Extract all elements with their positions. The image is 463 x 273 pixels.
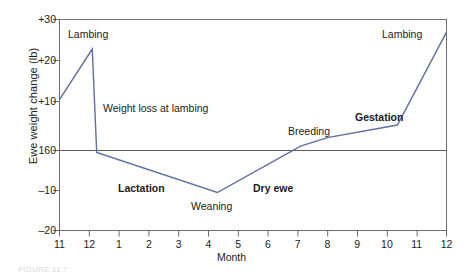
x-axis-title: Month — [0, 251, 463, 263]
x-tick-label-0: 11 — [47, 238, 73, 250]
figure-caption: FIGURE 11.7 — [18, 265, 68, 273]
y-tick-label-160: 160 — [22, 144, 56, 156]
figure-ewe-weight-change: Ewe weight change (lb) +30 +20 +10 160 –… — [0, 0, 463, 273]
y-tick-labels: +30 +20 +10 160 –10 –20 — [0, 0, 56, 273]
annotation-weight-loss-at-lambing: Weight loss at lambing — [103, 102, 208, 114]
x-tick-label-4: 3 — [166, 238, 192, 250]
x-tick-label-6: 5 — [225, 238, 251, 250]
x-tick-label-8: 7 — [285, 238, 311, 250]
x-tick-label-9: 8 — [314, 238, 340, 250]
y-tick-label-neg20: –20 — [22, 224, 56, 236]
annotation-lambing-start: Lambing — [68, 28, 108, 40]
chart-canvas — [0, 0, 463, 273]
y-tick-label-30: +30 — [22, 13, 56, 25]
x-tick-label-7: 6 — [255, 238, 281, 250]
y-tick-label-10: +10 — [22, 95, 56, 107]
annotation-lactation: Lactation — [118, 182, 165, 194]
annotation-lambing-end: Lambing — [382, 28, 422, 40]
x-tick-label-13: 12 — [434, 238, 460, 250]
annotation-breeding: Breeding — [288, 125, 330, 137]
x-tick-label-2: 1 — [106, 238, 132, 250]
y-tick-label-20: +20 — [22, 54, 56, 66]
x-tick-marks — [60, 231, 447, 237]
y-tick-label-neg10: –10 — [22, 184, 56, 196]
x-tick-label-12: 11 — [404, 238, 430, 250]
x-tick-label-10: 9 — [344, 238, 370, 250]
x-tick-label-5: 4 — [195, 238, 221, 250]
annotation-dry-ewe: Dry ewe — [253, 182, 293, 194]
annotation-weaning: Weaning — [191, 200, 232, 212]
annotation-gestation: Gestation — [355, 111, 403, 123]
x-tick-label-1: 12 — [76, 238, 102, 250]
x-tick-label-3: 2 — [136, 238, 162, 250]
x-tick-label-11: 10 — [374, 238, 400, 250]
plot-frame — [60, 20, 447, 231]
